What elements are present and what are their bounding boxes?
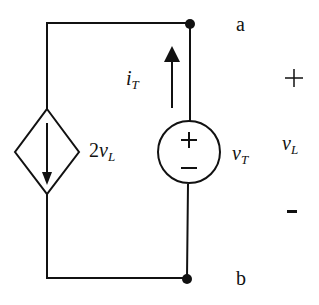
circuit-diagram (0, 0, 319, 305)
sub: L (108, 149, 115, 164)
wire-left-bottom (47, 184, 188, 278)
dependent-source-arrowhead (42, 172, 52, 185)
sub: L (291, 142, 298, 157)
current-label: iT (126, 68, 139, 91)
var: v (99, 139, 108, 161)
coeff: 2 (89, 139, 99, 161)
vl-minus (287, 210, 297, 213)
terminal-b-label: b (236, 268, 246, 288)
node-b (182, 274, 192, 284)
dependent-source-label: 2vL (89, 140, 115, 163)
current-arrowhead-icon (164, 46, 180, 62)
sub: T (132, 77, 139, 92)
node-a (185, 19, 195, 29)
test-voltage-source (158, 121, 220, 183)
wire-left-top (47, 23, 190, 121)
var: v (282, 132, 291, 154)
test-voltage-label: vT (232, 143, 248, 166)
terminal-a-label: a (236, 14, 245, 34)
sub: T (241, 152, 248, 167)
var: v (232, 142, 241, 164)
load-voltage-label: vL (282, 133, 298, 156)
